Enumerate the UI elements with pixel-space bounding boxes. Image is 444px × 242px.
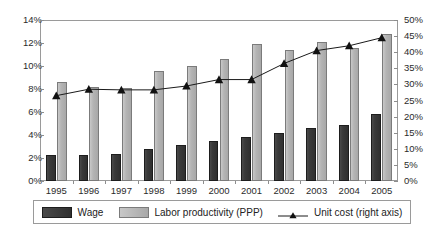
x-axis-tick-mark: [73, 181, 74, 184]
right-axis-tick-label: 15%: [404, 128, 440, 138]
right-axis-tick-label: 20%: [404, 112, 440, 122]
right-axis-tick-label: 45%: [404, 31, 440, 41]
chart-legend: Wage Labor productivity (PPP) Unit cost …: [33, 200, 411, 224]
right-axis-tick-label: 5%: [404, 160, 440, 170]
right-axis-tick-label: 50%: [404, 15, 440, 25]
legend-item-labor-productivity: Labor productivity (PPP): [119, 207, 263, 218]
legend-label-unit-cost: Unit cost (right axis): [314, 207, 402, 218]
unit-cost-line: [56, 38, 381, 96]
x-axis-tick-label: 2005: [362, 186, 402, 196]
left-axis-tick-mark: [40, 181, 44, 182]
unit-cost-marker: [280, 59, 288, 67]
left-axis-tick-label: 2%: [8, 153, 42, 163]
x-axis-tick-mark: [105, 181, 106, 184]
x-axis-tick-mark: [365, 181, 366, 184]
right-axis-tick-label: 25%: [404, 96, 440, 106]
x-axis-tick-mark: [235, 181, 236, 184]
x-axis-tick-mark: [203, 181, 204, 184]
unit-cost-marker: [378, 34, 386, 42]
legend-label-wage: Wage: [78, 207, 104, 218]
left-axis-tick-label: 0%: [8, 176, 42, 186]
x-axis-tick-mark: [268, 181, 269, 184]
x-axis-tick-mark: [138, 181, 139, 184]
right-axis-tick-label: 10%: [404, 144, 440, 154]
left-axis-tick-label: 12%: [8, 38, 42, 48]
right-axis-tick-mark: [394, 181, 398, 182]
chart-container: 0%2%4%6%8%10%12%14% 0%5%10%15%20%25%30%3…: [0, 0, 444, 242]
left-axis-tick-label: 14%: [8, 15, 42, 25]
legend-item-unit-cost: Unit cost (right axis): [278, 207, 402, 218]
right-axis-tick-label: 0%: [404, 176, 440, 186]
legend-swatch-labor-productivity-icon: [119, 207, 149, 218]
x-axis-tick-mark: [300, 181, 301, 184]
x-axis-tick-mark: [170, 181, 171, 184]
left-axis-tick-label: 8%: [8, 84, 42, 94]
x-axis-tick-mark: [333, 181, 334, 184]
legend-item-wage: Wage: [42, 207, 104, 218]
legend-label-labor-productivity: Labor productivity (PPP): [155, 207, 263, 218]
right-axis-tick-label: 40%: [404, 47, 440, 57]
left-axis-tick-label: 10%: [8, 61, 42, 71]
right-axis-tick-label: 35%: [404, 63, 440, 73]
legend-swatch-wage-icon: [42, 207, 72, 218]
legend-swatch-unit-cost-icon: [278, 207, 308, 217]
left-axis-tick-label: 6%: [8, 107, 42, 117]
right-axis-tick-label: 30%: [404, 79, 440, 89]
left-axis-tick-label: 4%: [8, 130, 42, 140]
unit-cost-line-series: [40, 20, 398, 181]
